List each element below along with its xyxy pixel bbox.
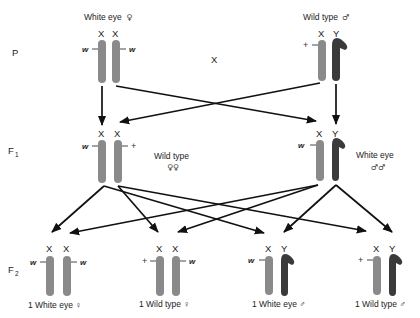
chromosome-name: X [98, 128, 105, 139]
offspring-label: 1 White eye ♀ [28, 300, 82, 310]
x-chromosome [63, 256, 71, 296]
f1-male: X Y w White eye ♂♂ [298, 128, 394, 181]
y-chromosome [281, 254, 294, 296]
chromosome-name: Y [332, 128, 339, 139]
parent-male: Wild type ♂ X Y + [303, 12, 350, 81]
parent-female-label: White eye ♀ [84, 12, 132, 22]
f1-male-sex-symbol: ♂♂ [371, 163, 385, 172]
parent-female: White eye ♀ X X w w [82, 12, 136, 83]
svg-text:F: F [8, 264, 14, 275]
x-chromosome [112, 40, 120, 83]
x-chromosome [156, 256, 164, 296]
allele-label: w [248, 256, 255, 265]
f2-offspring-wild-type-female: X X + w 1 Wild type ♀ [139, 243, 196, 309]
p-to-f1-arrows [102, 83, 336, 125]
f2-offspring-wild-type-male: X Y + 1 Wild type ♂ [355, 243, 406, 309]
allele-label: w [82, 142, 89, 151]
allele-label: w [298, 141, 305, 150]
y-chromosome [332, 38, 347, 81]
allele-label: w [129, 45, 136, 54]
x-chromosome [114, 140, 122, 183]
allele-label: + [358, 255, 363, 265]
chromosome-name: X [63, 243, 70, 254]
chromosome-name: X [114, 128, 121, 139]
chromosome-name: X [46, 243, 53, 254]
inheritance-diagram: P F 1 F 2 X White eye ♀ X X w w Wild typ… [0, 0, 420, 318]
chromosome-name: Y [333, 28, 340, 39]
offspring-label: 1 White eye ♂ [252, 299, 306, 309]
chromosome-name: X [156, 243, 163, 254]
chromosome-name: X [98, 28, 105, 39]
f1-female-sex-symbol: ♀♀ [167, 163, 179, 172]
f1-female: X X w + Wild type ♀♀ [82, 128, 189, 183]
f1-female-phenotype: Wild type [154, 151, 189, 161]
allele-label: + [142, 256, 147, 266]
parent-male-label: Wild type ♂ [303, 12, 350, 22]
svg-text:1: 1 [15, 151, 19, 158]
f2-offspring-white-eye-male: X Y w 1 White eye ♂ [248, 243, 306, 309]
x-chromosome [98, 140, 106, 183]
arrow [118, 186, 366, 231]
chromosome-name: X [172, 243, 179, 254]
x-chromosome [46, 256, 54, 296]
chromosome-name: X [373, 243, 380, 254]
x-chromosome [318, 40, 326, 81]
generation-label-f1: F 1 [8, 145, 19, 158]
x-chromosome [98, 40, 106, 83]
offspring-label: 1 Wild type ♂ [355, 299, 406, 309]
arrow [52, 186, 104, 232]
chromosome-name: X [265, 243, 272, 254]
arrow [336, 185, 392, 232]
f1-male-phenotype: White eye [356, 150, 394, 160]
chromosome-name: Y [281, 243, 288, 254]
y-chromosome [389, 254, 402, 296]
chromosome-name: Y [389, 243, 396, 254]
allele-label: w [82, 45, 89, 54]
x-chromosome [316, 140, 324, 181]
allele-label: w [189, 257, 196, 266]
x-chromosome [265, 256, 273, 295]
allele-label: w [30, 258, 37, 267]
allele-label: w [80, 258, 87, 267]
y-chromosome [332, 138, 345, 181]
f1-to-f2-arrows [52, 185, 392, 233]
chromosome-name: X [112, 28, 119, 39]
generation-label-p: P [12, 47, 18, 58]
chromosome-name: X [316, 128, 323, 139]
arrow [104, 186, 264, 233]
svg-text:F: F [8, 145, 14, 156]
svg-text:2: 2 [15, 270, 19, 277]
x-chromosome [373, 256, 381, 295]
allele-label: + [303, 40, 308, 50]
chromosome-name: X [318, 28, 325, 39]
offspring-label: 1 Wild type ♀ [139, 299, 190, 309]
generation-label-f2: F 2 [8, 264, 19, 277]
x-chromosome [172, 256, 180, 296]
allele-label: + [131, 141, 136, 151]
f2-offspring-white-eye-female: X X w w 1 White eye ♀ [28, 243, 87, 310]
cross-symbol: X [211, 54, 218, 65]
